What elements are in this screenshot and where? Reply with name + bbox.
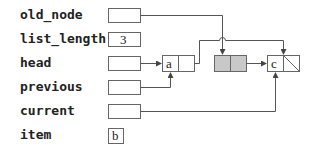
node-removed-next-cell bbox=[231, 56, 247, 72]
old-node-pointer-arrow bbox=[141, 16, 223, 55]
list-length-value: 3 bbox=[120, 32, 127, 47]
linked-list-diagram: 3 b a c bbox=[0, 0, 317, 147]
previous-box bbox=[109, 81, 141, 95]
null-pointer-slash bbox=[284, 56, 300, 72]
current-box bbox=[109, 105, 141, 119]
node-removed-data-cell bbox=[215, 56, 231, 72]
node-a-next-cell bbox=[179, 56, 195, 72]
current-pointer-arrow bbox=[141, 73, 276, 112]
item-value: b bbox=[112, 128, 119, 143]
node-a-value: a bbox=[166, 56, 172, 71]
old-node-box bbox=[109, 9, 141, 23]
head-box bbox=[109, 57, 141, 71]
previous-pointer-arrow bbox=[141, 73, 171, 88]
node-c-value: c bbox=[271, 56, 277, 71]
